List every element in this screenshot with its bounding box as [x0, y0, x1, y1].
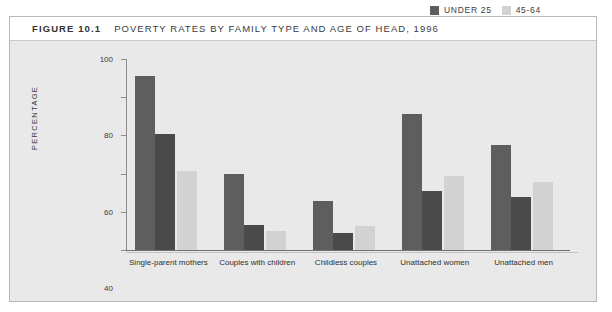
figure-title-bar: FIGURE 10.1 POVERTY RATES BY FAMILY TYPE… — [10, 17, 596, 41]
bar — [355, 226, 375, 250]
category-label: Unattached women — [400, 258, 469, 267]
bar-series-container — [126, 59, 570, 250]
y-axis-title: PERCENTAGE — [30, 86, 39, 150]
bar — [511, 197, 531, 250]
legend-swatch-45-64 — [502, 6, 511, 15]
bar-group — [491, 59, 553, 250]
legend-swatch-under-25 — [430, 6, 439, 15]
legend-item-under-25: UNDER 25 — [430, 4, 492, 16]
y-tick-label: 100 — [100, 55, 113, 64]
category-label: Childless couples — [315, 258, 377, 267]
bar — [422, 191, 442, 250]
figure-page: UNDER 25 45-64 25-44 FIGURE 10.1 POVERTY… — [0, 0, 612, 312]
category-label: Single-parent mothers — [129, 258, 208, 267]
figure-title: POVERTY RATES BY FAMILY TYPE AND AGE OF … — [114, 23, 439, 34]
bar-group — [224, 59, 286, 250]
y-tick-label: 60 — [104, 207, 113, 216]
bar — [155, 134, 175, 250]
y-tick-label: 80 — [104, 131, 113, 140]
category-label: Unattached men — [494, 258, 553, 267]
legend-label-under-25: UNDER 25 — [444, 4, 492, 16]
bar-group — [313, 59, 375, 250]
bar — [402, 114, 422, 250]
y-tick: 0 — [121, 250, 126, 251]
plot-area: 020406080100 Single-parent mothersCouple… — [126, 59, 570, 250]
bar — [244, 225, 264, 250]
bar — [266, 231, 286, 250]
bar — [224, 174, 244, 250]
bar — [444, 176, 464, 250]
bar-group — [402, 59, 464, 250]
y-tick-label: 40 — [104, 284, 113, 293]
bar — [135, 76, 155, 250]
bar-group — [135, 59, 197, 250]
figure-frame: FIGURE 10.1 POVERTY RATES BY FAMILY TYPE… — [9, 16, 597, 302]
legend-label-45-64: 45-64 — [516, 4, 541, 16]
figure-number: FIGURE 10.1 — [32, 23, 101, 34]
x-axis-shadow — [126, 252, 578, 253]
bar — [177, 171, 197, 250]
category-label: Couples with children — [219, 258, 295, 267]
chart-body: PERCENTAGE 020406080100 Single-parent mo… — [10, 42, 596, 301]
bar — [313, 201, 333, 250]
x-axis-line — [126, 250, 570, 251]
legend-item-45-64: 45-64 — [502, 4, 541, 16]
bar — [333, 233, 353, 250]
bar — [491, 145, 511, 250]
bar — [533, 182, 553, 250]
